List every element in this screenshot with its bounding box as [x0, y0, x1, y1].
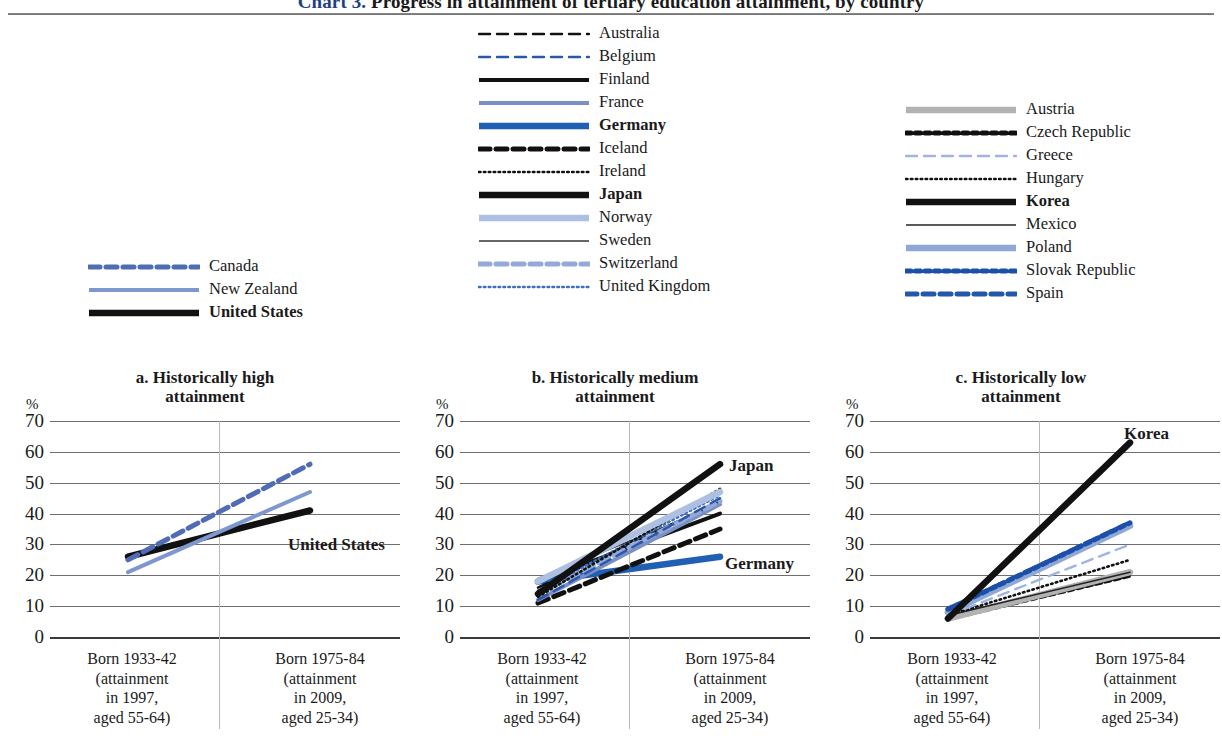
legend-label: Canada: [209, 258, 258, 275]
page-title: Chart 3. Progress in attainment of terti…: [0, 0, 1222, 13]
panel-c-title: c. Historically lowattainment: [820, 368, 1222, 406]
y-axis-tick: 30: [435, 535, 454, 554]
legend-label: Greece: [1026, 147, 1073, 164]
legend-item: Australia: [478, 22, 710, 45]
legend-item: Spain: [905, 282, 1136, 305]
legend-label: Japan: [599, 186, 642, 203]
legend-swatch-iceland-icon: [478, 142, 590, 156]
legend-historically-low: AustriaCzech RepublicGreeceHungaryKoreaM…: [905, 98, 1136, 305]
panel-a-title: a. Historically highattainment: [0, 368, 410, 406]
series-lines: [460, 421, 810, 641]
x-axis-label: Born 1975-84(attainmentin 2009,aged 25-3…: [1065, 649, 1215, 727]
legend-historically-medium: AustraliaBelgiumFinlandFranceGermanyIcel…: [478, 22, 710, 298]
legend-item: Austria: [905, 98, 1136, 121]
legend-item: Canada: [88, 255, 303, 278]
legend-label: Slovak Republic: [1026, 262, 1136, 279]
x-axis-label: Born 1933-42(attainmentin 1997,aged 55-6…: [467, 649, 617, 727]
legend-swatch-canada-icon: [88, 260, 200, 274]
legend-swatch-united-kingdom-icon: [478, 280, 590, 294]
legend-item: Japan: [478, 183, 710, 206]
legend-label: Spain: [1026, 285, 1064, 302]
legend-swatch-united-states-icon: [88, 306, 200, 320]
y-axis-tick: 70: [25, 411, 44, 430]
y-axis-tick: 40: [435, 504, 454, 523]
y-axis-tick: 0: [855, 627, 865, 646]
legend-label: Ireland: [599, 163, 646, 180]
y-axis-tick: 40: [845, 504, 864, 523]
legend-item: Slovak Republic: [905, 259, 1136, 282]
legend-swatch-slovak-republic-icon: [905, 264, 1017, 278]
y-axis-tick: 10: [25, 596, 44, 615]
y-axis-tick: 20: [435, 565, 454, 584]
annotation-japan: Japan: [729, 456, 773, 476]
legend-swatch-hungary-icon: [905, 172, 1017, 186]
legend-swatch-belgium-icon: [478, 50, 590, 64]
y-axis-tick: 50: [435, 473, 454, 492]
y-axis-tick: 60: [435, 442, 454, 461]
y-axis-tick: 70: [435, 411, 454, 430]
legend-historically-high: CanadaNew ZealandUnited States: [88, 255, 303, 324]
legend-swatch-poland-icon: [905, 241, 1017, 255]
y-axis-tick: 50: [25, 473, 44, 492]
legend-swatch-new-zealand-icon: [88, 283, 200, 297]
y-axis-tick: 0: [445, 627, 455, 646]
legend-label: Austria: [1026, 101, 1075, 118]
legend-swatch-austria-icon: [905, 103, 1017, 117]
legend-swatch-greece-icon: [905, 149, 1017, 163]
y-axis-tick: 50: [845, 473, 864, 492]
legend-swatch-spain-icon: [905, 287, 1017, 301]
legend-label: Mexico: [1026, 216, 1076, 233]
legend-label: Korea: [1026, 193, 1070, 210]
legend-label: France: [599, 94, 644, 111]
legend-swatch-mexico-icon: [905, 218, 1017, 232]
annotation-korea: Korea: [1124, 424, 1169, 444]
y-axis-tick: 30: [845, 535, 864, 554]
x-axis-label: Born 1975-84(attainmentin 2009,aged 25-3…: [245, 649, 395, 727]
y-axis-tick: 60: [845, 442, 864, 461]
legend-swatch-japan-icon: [478, 188, 590, 202]
legend-item: New Zealand: [88, 278, 303, 301]
y-axis-tick: 70: [845, 411, 864, 430]
legend-item: United Kingdom: [478, 275, 710, 298]
legend-swatch-switzerland-icon: [478, 257, 590, 271]
legend-label: Iceland: [599, 140, 648, 157]
y-axis-tick: 0: [35, 627, 45, 646]
legend-swatch-czech-republic-icon: [905, 126, 1017, 140]
legend-label: Hungary: [1026, 170, 1084, 187]
y-axis-tick: 10: [435, 596, 454, 615]
y-axis-tick: 60: [25, 442, 44, 461]
legend-item: Hungary: [905, 167, 1136, 190]
legend-swatch-norway-icon: [478, 211, 590, 225]
legend-swatch-ireland-icon: [478, 165, 590, 179]
x-axis-label: Born 1933-42(attainmentin 1997,aged 55-6…: [57, 649, 207, 727]
legend-item: Czech Republic: [905, 121, 1136, 144]
legend-label: United States: [209, 304, 303, 321]
legend-item: Ireland: [478, 160, 710, 183]
legend-item: Korea: [905, 190, 1136, 213]
annotation-germany: Germany: [725, 554, 794, 574]
title-divider: [8, 13, 1214, 15]
legend-item: Norway: [478, 206, 710, 229]
legend-label: Switzerland: [599, 255, 678, 272]
y-axis-tick: 20: [25, 565, 44, 584]
y-axis-tick: 10: [845, 596, 864, 615]
legend-item: Greece: [905, 144, 1136, 167]
panel-historically-high: a. Historically highattainment % 7060504…: [0, 368, 410, 754]
chart-title-text: Progress in attainment of tertiary educa…: [371, 0, 924, 12]
legend-item: Iceland: [478, 137, 710, 160]
legend-item: Mexico: [905, 213, 1136, 236]
annotation-united-states: United States: [288, 535, 385, 555]
legend-label: Norway: [599, 209, 652, 226]
legend-label: Sweden: [599, 232, 651, 249]
legend-item: Poland: [905, 236, 1136, 259]
legend-label: New Zealand: [209, 281, 297, 298]
legend-swatch-australia-icon: [478, 27, 590, 41]
x-axis-label: Born 1975-84(attainmentin 2009,aged 25-3…: [655, 649, 805, 727]
legend-item: Switzerland: [478, 252, 710, 275]
legend-item: Finland: [478, 68, 710, 91]
series-lines: [870, 421, 1220, 641]
panel-b-title: b. Historically mediumattainment: [410, 368, 820, 406]
chart-page: Chart 3. Progress in attainment of terti…: [0, 0, 1222, 754]
legend-label: Belgium: [599, 48, 656, 65]
y-axis-tick: 40: [25, 504, 44, 523]
